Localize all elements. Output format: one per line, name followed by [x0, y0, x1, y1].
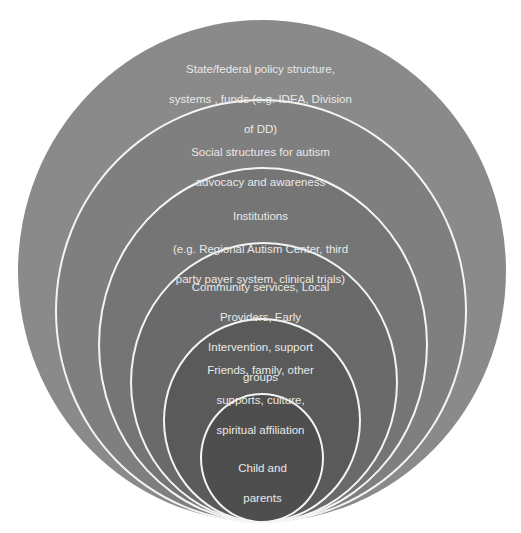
nested-circles-diagram: State/federal policy structure, systems …	[0, 0, 521, 533]
label-child: Child and parents	[2, 446, 521, 521]
label-friends: Friends, family, other supports, culture…	[0, 348, 521, 453]
